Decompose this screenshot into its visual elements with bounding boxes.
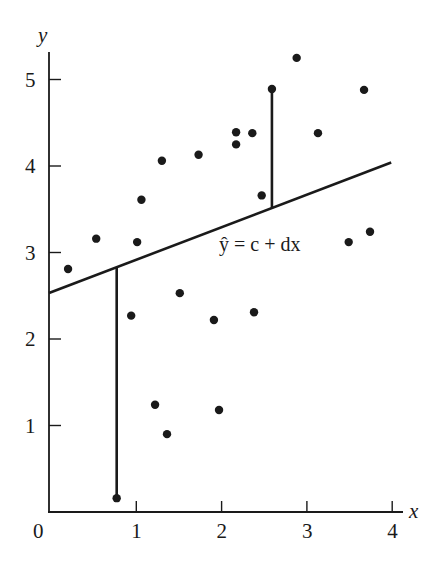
x-axis-label: x [408,499,419,523]
regression-equation-label: ŷ = c + dx [219,233,300,256]
data-point [292,54,300,62]
y-tick-label: 2 [25,327,36,351]
x-tick-label: 2 [217,519,228,543]
x-tick-label: 0 [33,519,44,543]
y-axis-label: y [36,23,48,47]
data-point [127,311,135,319]
data-point [163,430,171,438]
residual-segments [117,89,272,498]
data-point [232,128,240,136]
data-point [360,86,368,94]
data-point [248,129,256,137]
data-point [210,316,218,324]
data-point [366,228,374,236]
y-tick-label: 1 [25,414,36,438]
axes: y x 01234 12345 [25,23,419,543]
regression-line [49,163,391,294]
x-ticks: 01234 [33,501,398,543]
data-point [133,238,141,246]
scatter-plot-with-regression-line: y x 01234 12345 ŷ = c + dx [0,0,439,564]
y-tick-label: 5 [25,68,36,92]
x-tick-label: 4 [387,519,398,543]
data-points [64,54,374,503]
data-point [112,494,120,502]
y-ticks: 12345 [25,68,61,438]
data-point [268,85,276,93]
data-point [215,406,223,414]
data-point [64,265,72,273]
data-point [257,191,265,199]
y-tick-label: 4 [25,154,36,178]
data-point [344,238,352,246]
x-tick-label: 1 [131,519,142,543]
data-point [92,234,100,242]
data-point [232,140,240,148]
y-tick-label: 3 [25,241,36,265]
data-point [176,289,184,297]
data-point [250,308,258,316]
x-tick-label: 3 [302,519,313,543]
data-point [158,157,166,165]
data-point [137,196,145,204]
data-point [314,129,322,137]
data-point [194,151,202,159]
data-point [151,401,159,409]
